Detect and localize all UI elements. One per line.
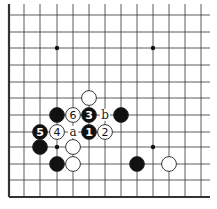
white-stone [82,91,97,106]
move-number: 4 [54,126,61,139]
black-stone: 5 [33,125,48,140]
move-number: 5 [36,126,44,139]
point-label-b: b [100,108,110,122]
white-stone [162,157,177,172]
move-number: 2 [102,126,109,139]
star-point [55,145,59,149]
star-point [151,145,155,149]
white-stone [66,140,81,155]
black-stone [33,140,48,155]
move-number: 1 [85,126,93,139]
star-point [55,46,59,50]
star-point [151,46,155,50]
point-label-a: a [68,125,78,139]
white-stone: 4 [50,125,65,140]
board-grid [9,4,210,197]
move-number: 6 [70,109,77,122]
black-stone [50,157,65,172]
black-stone [50,108,65,123]
black-stone: 1 [82,125,97,140]
svg-text:a: a [69,125,76,139]
black-stone [130,157,145,172]
black-stone: 3 [82,108,97,123]
move-number: 3 [85,109,93,122]
white-stone: 6 [66,108,81,123]
white-stone: 2 [98,125,113,140]
go-board-diagram: 635412 ba [0,0,217,209]
black-stone [114,108,129,123]
white-stone [66,157,81,172]
svg-text:b: b [101,108,109,122]
stones-layer: 635412 [33,91,177,172]
